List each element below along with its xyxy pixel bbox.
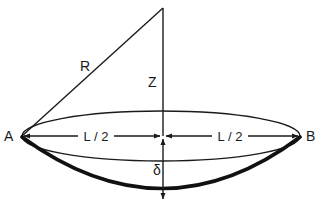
radius-line (22, 8, 163, 136)
sag-arc (22, 137, 300, 189)
label-point-b: B (306, 128, 315, 144)
arc-sag-diagram: A B R Z L / 2 L / 2 δ (0, 0, 326, 206)
label-half-chord-left: L / 2 (84, 129, 109, 144)
label-radius: R (80, 58, 90, 74)
label-sag: δ (153, 162, 161, 178)
label-point-a: A (4, 128, 14, 144)
label-half-chord-right: L / 2 (218, 129, 243, 144)
label-center-offset: Z (148, 74, 157, 90)
